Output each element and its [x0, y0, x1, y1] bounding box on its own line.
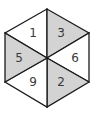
label-right: 6	[71, 51, 79, 65]
label-top-right: 3	[57, 26, 65, 40]
label-top-left: 1	[29, 26, 37, 40]
label-left: 5	[15, 51, 23, 65]
hexagon-diagram: 1 3 6 2 9 5	[0, 0, 99, 113]
label-bottom-left: 9	[29, 75, 37, 89]
label-bottom-right: 2	[57, 75, 65, 89]
